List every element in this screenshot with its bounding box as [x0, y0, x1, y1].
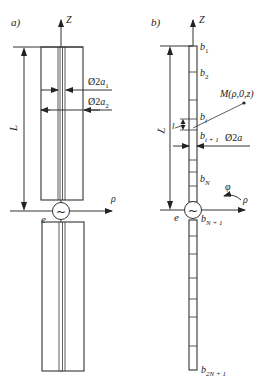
segment-label-b2: b2 — [200, 67, 209, 81]
diameter-label-b: Ø2a — [225, 132, 242, 143]
observation-point-label: M(ρ,0,z) — [219, 88, 254, 100]
z-axis-label-a: Z — [66, 14, 72, 25]
panel-b-label: b) — [151, 16, 161, 29]
dimension-label-a2: Ø2a2 — [88, 96, 109, 110]
outer-conductor-bottom — [42, 222, 84, 371]
segment-label-bN1: bN + 1 — [201, 213, 222, 227]
source-label-b: e — [174, 211, 179, 223]
panel-b: b) Z L l — [151, 14, 254, 378]
segment-label-b1: b1 — [200, 41, 209, 55]
panel-a: a) Z L Ø2a1 Ø2a2 — [7, 14, 116, 372]
outer-conductor-top — [41, 47, 83, 200]
rho-label-b: ρ — [242, 194, 248, 205]
segment-label-bi1: bi + 1 — [200, 130, 219, 144]
source-label-a: e — [41, 213, 46, 225]
segmented-wire-top — [189, 46, 197, 202]
segmented-wire-bottom — [189, 220, 197, 370]
tilde-glyph-b: ~ — [188, 204, 198, 218]
rho-label-a: ρ — [110, 193, 116, 204]
tilde-glyph-a: ~ — [56, 205, 66, 219]
length-label-a: L — [7, 125, 19, 132]
phi-label: φ — [225, 181, 231, 192]
segment-label-b2N1: b2N + 1 — [201, 364, 226, 378]
observation-point — [242, 101, 245, 104]
phi-arc — [224, 195, 241, 200]
length-label-b: L — [154, 125, 167, 135]
segment-label-bN: bN — [200, 173, 210, 187]
antenna-diagram: a) Z L Ø2a1 Ø2a2 — [0, 0, 268, 383]
dimension-label-a1: Ø2a1 — [88, 76, 109, 90]
segment-length-label: l — [172, 121, 175, 131]
z-axis-label-b: Z — [199, 14, 205, 25]
panel-a-label: a) — [11, 16, 21, 29]
